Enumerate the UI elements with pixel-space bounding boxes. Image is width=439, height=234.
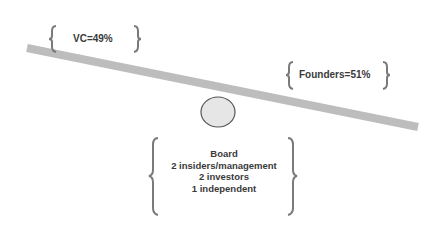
vc-share-label: VC=49% <box>73 33 113 44</box>
board-composition: Board 2 insiders/management 2 investors … <box>160 148 288 194</box>
founders-share-label: Founders=51% <box>299 69 370 80</box>
vc-right-brace <box>134 26 141 52</box>
board-left-brace <box>149 138 158 215</box>
founders-right-brace <box>383 62 390 89</box>
seesaw-graphics <box>0 0 439 234</box>
board-independent: 1 independent <box>160 183 288 195</box>
fulcrum-circle <box>201 97 235 127</box>
founders-left-brace <box>286 62 293 89</box>
seesaw-diagram: VC=49% Founders=51% Board 2 insiders/man… <box>0 0 439 234</box>
board-right-brace <box>288 138 297 215</box>
board-insiders: 2 insiders/management <box>160 160 288 172</box>
vc-left-brace <box>49 26 56 52</box>
board-title: Board <box>160 148 288 160</box>
board-investors: 2 investors <box>160 171 288 183</box>
